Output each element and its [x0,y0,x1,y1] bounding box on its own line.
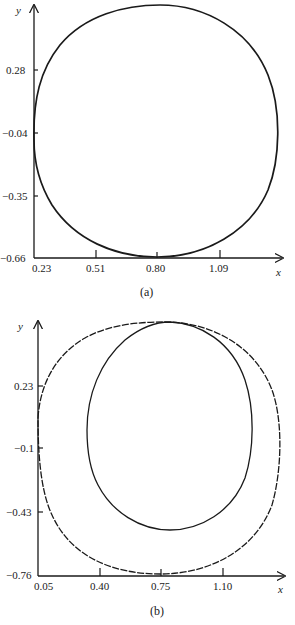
y-tick-label-a-0: 0.28 [6,64,26,76]
y-tick-label-b-3: −0.76 [6,569,32,581]
x-tick-label-a-1: 0.51 [86,262,105,274]
x-axis-label-b: x [277,583,283,595]
y-tick-label-b-1: −0.1 [14,442,34,454]
orbit-curve-a [34,5,278,257]
x-tick-label-a-3: 1.09 [209,262,229,274]
y-tick-label-a-3: −0.66 [0,252,26,264]
x-tick-label-a-2: 0.80 [146,262,166,274]
x-tick-label-b-3: 1.10 [213,580,233,592]
x-tick-label-a-0: 0.23 [32,262,52,274]
y-axis-label-a: y [15,4,21,16]
y-tick-label-b-2: −0.43 [6,506,32,518]
x-tick-label-b-1: 0.40 [90,580,110,592]
y-tick-label-a-2: −0.35 [2,190,28,202]
panel-b: y x 0.23 −0.1 −0.43 −0.76 0.05 0.40 0.75… [6,320,284,618]
x-axis-label-a: x [275,266,281,278]
caption-a: (a) [140,285,153,299]
figure: y x 0.28 −0.04 −0.35 −0.66 0.23 0.51 0.8… [0,0,295,625]
caption-b: (b) [150,604,164,618]
outer-loop-curve-b [38,322,280,574]
y-tick-label-a-1: −0.04 [2,127,28,139]
inner-loop-curve-b [87,322,252,530]
x-tick-label-b-0: 0.05 [34,580,54,592]
x-tick-label-b-2: 0.75 [151,580,171,592]
y-axis-label-b: y [17,320,23,332]
panel-a: y x 0.28 −0.04 −0.35 −0.66 0.23 0.51 0.8… [0,4,282,299]
y-tick-label-b-0: 0.23 [14,380,34,392]
